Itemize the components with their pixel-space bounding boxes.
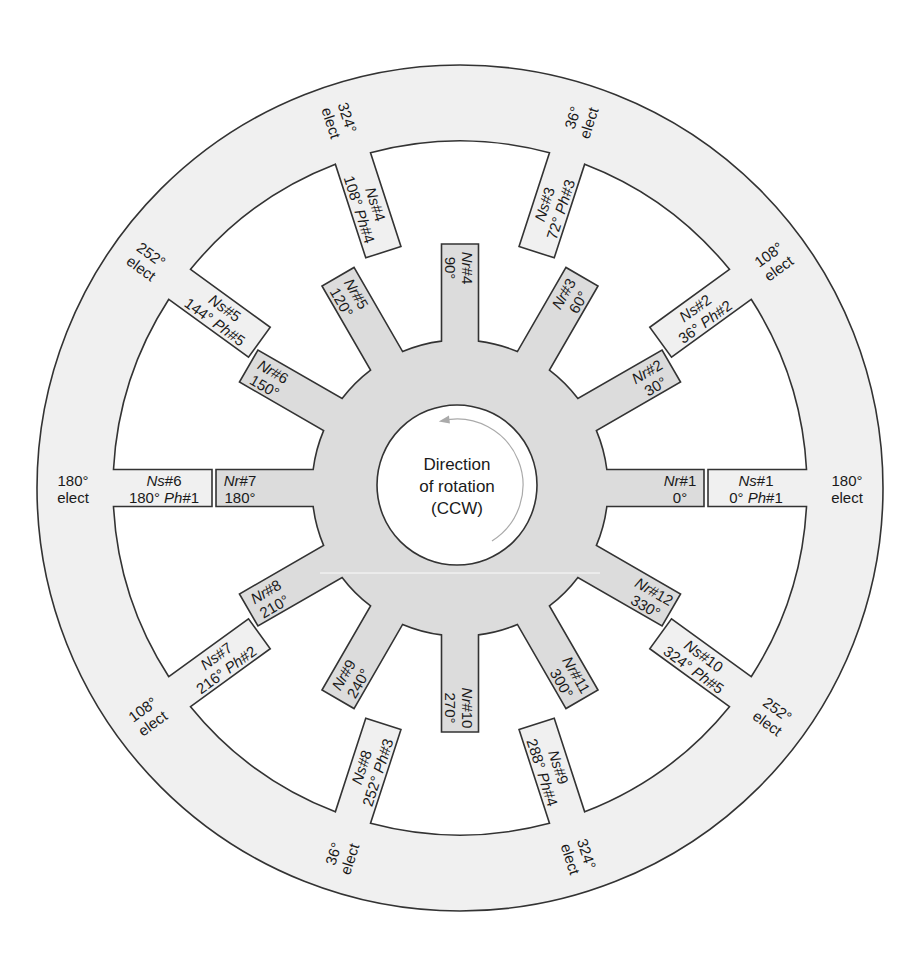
- stator-pole-label-1-line2: 0° Ph#1: [729, 489, 783, 506]
- rotor-pole-label-4-line1: Nr#4: [459, 252, 476, 285]
- center-label-line2: of rotation: [419, 477, 495, 496]
- rotor-pole-label-4-line2: 90°: [442, 257, 459, 280]
- rotor-pole-label-10-line1: Nr#10: [459, 688, 476, 729]
- stator-pole-label-1-line1: Ns#1: [738, 472, 773, 489]
- stator-elect-label-6-line2: elect: [57, 489, 90, 506]
- rotor-pole-label-7-line1: Nr#7: [224, 472, 257, 489]
- rotor-pole-label-7-line2: 180°: [224, 489, 255, 506]
- rotor-pole-label-7: Nr#7180°: [224, 472, 257, 506]
- stator-elect-label-1-line1: 180°: [831, 472, 862, 489]
- stator-pole-label-6-line2: 180° Ph#1: [129, 489, 199, 506]
- srm-diagram: Nr#10°Nr#230°Nr#360°Nr#490°Nr#5120°Nr#61…: [0, 0, 914, 958]
- rotor-pole-label-10-line2: 270°: [442, 692, 459, 723]
- center-label-line3: (CCW): [431, 499, 483, 518]
- stator-elect-label-6-line1: 180°: [57, 472, 88, 489]
- center-label-line1: Direction: [423, 455, 490, 474]
- stator-elect-label-6: 180°elect: [57, 472, 90, 506]
- stator-pole-label-6-line1: Ns#6: [146, 472, 181, 489]
- rotor-pole-label-1-line1: Nr#1: [664, 472, 697, 489]
- stator-elect-label-1-line2: elect: [831, 489, 864, 506]
- stator-elect-label-1: 180°elect: [831, 472, 864, 506]
- rotor-pole-label-10: Nr#10270°: [442, 688, 476, 729]
- rotor-pole-label-1-line2: 0°: [673, 489, 687, 506]
